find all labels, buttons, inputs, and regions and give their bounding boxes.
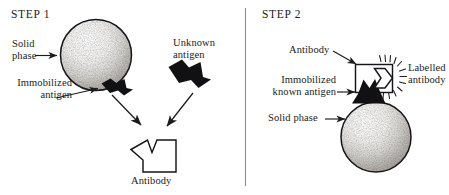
step1-unknown-antigen — [169, 60, 212, 89]
step1-unknown-antigen-label: Unknown antigen — [173, 37, 215, 62]
step2-antibody-label: Antibody — [289, 44, 329, 56]
step1-solid-phase-line1: Solid — [12, 38, 36, 50]
step1-unknown-line1: Unknown — [173, 37, 215, 49]
step1-antibody-label: Antibody — [131, 175, 171, 187]
step2-immobilized-known-antigen-label: Immobilized known antigen — [250, 74, 336, 99]
step1-title: STEP 1 — [11, 8, 50, 21]
step2-solid-phase-label: Solid phase — [268, 112, 318, 124]
step2-immobilized-line2: known antigen — [250, 86, 336, 98]
step2-labelled-line1: Labelled — [408, 62, 446, 74]
step2-title: STEP 2 — [262, 8, 301, 21]
step1-immobilized-line2: antigen — [6, 89, 72, 101]
step1-immobilized-line1: Immobilized — [6, 77, 72, 89]
step2-antibody-arrow — [333, 51, 356, 64]
step2-solid-phase-sphere — [341, 102, 411, 172]
step2-labelled-line2: antibody — [408, 74, 446, 86]
step1-immobilized-antigen-label: Immobilized antigen — [6, 77, 72, 102]
step1-antibody-shape — [131, 140, 176, 172]
step1-solid-phase-label: Solid phase — [12, 38, 36, 63]
step2-immobilized-line1: Immobilized — [250, 74, 336, 86]
step1-solid-phase-line2: phase — [12, 50, 36, 62]
immunoassay-figure: STEP 1 Solid phase Immobilized antigen U… — [0, 0, 449, 195]
step1-unknown-line2: antigen — [173, 49, 215, 61]
step2-labelled-antibody-label: Labelled antibody — [408, 62, 446, 87]
step1-reaction-arrows — [112, 93, 193, 126]
